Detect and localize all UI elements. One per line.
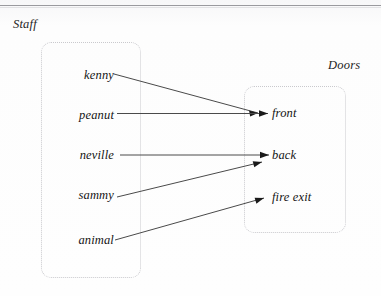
edge-peanut-front [117,110,268,116]
door-node-front[interactable]: front [272,106,297,121]
edge-kenny-front [114,74,258,117]
staff-node-animal[interactable]: animal [4,233,114,248]
staff-node-sammy[interactable]: sammy [4,188,114,203]
edge-animal-fireexit [115,198,264,240]
diagram-canvas: Staff Doors kenny [0,0,381,296]
staff-node-kenny[interactable]: kenny [4,68,114,83]
staff-node-neville[interactable]: neville [4,148,114,163]
edge-neville-back [120,152,269,158]
door-node-fire-exit[interactable]: fire exit [272,190,311,205]
staff-node-peanut[interactable]: peanut [4,108,114,123]
door-node-back[interactable]: back [272,148,296,163]
edge-sammy-back [117,161,262,197]
